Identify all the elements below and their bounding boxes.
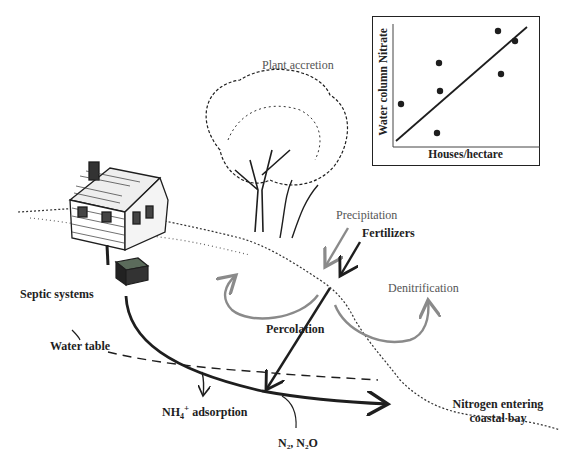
denitrification-curve-arrow (335, 300, 428, 342)
fertilizers-arrow (340, 242, 360, 276)
nh4-sub: 4 (180, 412, 184, 421)
label-denitrification: Denitrification (388, 282, 459, 296)
label-septic-systems: Septic systems (20, 288, 94, 302)
nitrogen-entering-line1: Nitrogen entering (428, 398, 568, 412)
label-n2-n2o: N₂, N₂O (278, 437, 318, 451)
chart-x-axis-label: Houses/hectare (393, 148, 538, 160)
nitrogen-entering-line2: coastal bay (428, 412, 568, 426)
label-water-table: Water table (50, 340, 110, 354)
chart-ylabel-text: Water column Nitrate (377, 28, 389, 136)
precipitation-arrow (325, 228, 348, 267)
water-table-line (108, 352, 378, 380)
nh4-adsorption-arrow (202, 372, 204, 396)
label-fertilizers: Fertilizers (362, 227, 415, 241)
plant-uptake-curve-arrow (225, 275, 318, 318)
septic-flow-arrow (126, 296, 388, 404)
tree-icon (206, 69, 347, 238)
inset-scatter-chart (372, 16, 540, 166)
house-icon (70, 162, 168, 250)
septic-tank-icon (107, 245, 148, 285)
percolation-arrow (266, 288, 330, 390)
label-percolation: Percolation (266, 323, 324, 337)
nh4-base: NH (162, 405, 180, 419)
chart-y-axis-label: Water column Nitrate (375, 18, 391, 146)
nh4-rest: adsorption (189, 405, 247, 419)
label-plant-accretion: Plant accretion (262, 59, 334, 73)
label-nh4-adsorption: NH4+ adsorption (162, 403, 248, 422)
label-nitrogen-entering: Nitrogen entering coastal bay (428, 398, 568, 426)
label-precipitation: Precipitation (336, 209, 397, 223)
n2-callout-line (282, 396, 296, 428)
